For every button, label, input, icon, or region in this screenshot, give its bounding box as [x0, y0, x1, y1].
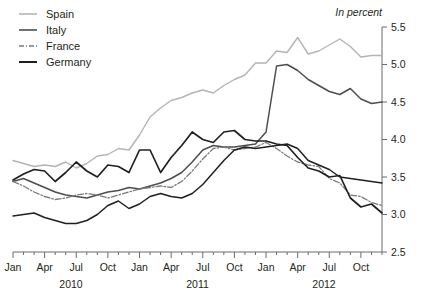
chart-container: Spain Italy France Germany In percent 2.…: [0, 0, 424, 298]
x-tick-label: Oct: [100, 261, 116, 273]
x-tick-label: Jan: [131, 261, 148, 273]
x-tick-label: Jan: [5, 261, 22, 273]
x-tick-label: Jul: [196, 261, 209, 273]
plot-area: 2.53.03.54.04.55.05.5JanAprJulOctJanAprJ…: [0, 0, 424, 298]
y-tick-label: 4.5: [391, 96, 406, 108]
x-tick-label: Jul: [323, 261, 336, 273]
y-tick-label: 5.0: [391, 58, 406, 70]
x-tick-label: Apr: [36, 261, 53, 273]
y-tick-label: 5.5: [391, 21, 406, 33]
y-tick-label: 3.0: [391, 208, 406, 220]
x-tick-label: Jan: [258, 261, 275, 273]
series-line-germany: [13, 131, 382, 214]
x-tick-label: Oct: [353, 261, 369, 273]
x-tick-label: Apr: [163, 261, 180, 273]
x-tick-label: Apr: [289, 261, 306, 273]
year-label: 2011: [186, 278, 209, 290]
year-label: 2012: [312, 278, 336, 290]
y-tick-label: 4.0: [391, 133, 406, 145]
y-tick-label: 3.5: [391, 171, 406, 183]
series-line-spain: [13, 38, 382, 169]
x-tick-label: Jul: [70, 261, 83, 273]
series-line-italy: [13, 65, 382, 199]
year-label: 2010: [59, 278, 83, 290]
y-tick-label: 2.5: [391, 246, 406, 258]
x-tick-label: Oct: [226, 261, 242, 273]
